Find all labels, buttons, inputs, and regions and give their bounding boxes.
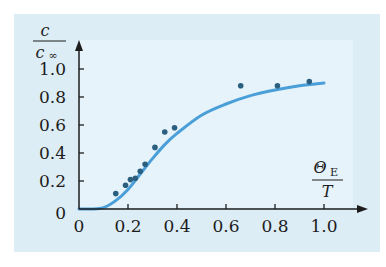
data-point [238, 83, 244, 89]
y-tick-label: 0.4 [39, 143, 66, 163]
y-label-subscript: ∞ [48, 49, 57, 62]
data-point [152, 145, 158, 151]
data-point [137, 168, 143, 174]
data-point [275, 83, 281, 89]
x-tick-label: 0.6 [212, 216, 239, 236]
x-label-denominator: T [322, 182, 334, 201]
y-tick-label: 0.6 [39, 115, 66, 135]
x-axis-arrow-icon [357, 205, 368, 213]
x-tick-label: 0.2 [114, 216, 141, 236]
x-tick-label: 0 [74, 216, 85, 236]
data-point [128, 177, 134, 183]
x-tick-label: 1.0 [310, 216, 337, 236]
x-tick-label: 0.8 [261, 216, 288, 236]
y-tick-label: 0 [55, 203, 66, 223]
x-tick-label: 0.4 [163, 216, 190, 236]
data-point [307, 79, 313, 85]
plot-area [79, 40, 353, 208]
y-label-numerator: c [41, 21, 50, 40]
y-axis-label: c c ∞ [33, 21, 66, 62]
x-label-subscript: E [330, 166, 338, 179]
chart-canvas: 00.20.40.60.81.000.20.40.60.81.0 c c ∞ Θ… [0, 0, 386, 267]
data-point [133, 175, 139, 181]
data-point [123, 182, 129, 188]
y-tick-label: 0.2 [39, 171, 66, 191]
y-tick-label: 1.0 [39, 59, 66, 79]
y-tick-label: 0.8 [39, 87, 66, 107]
data-point [113, 191, 119, 197]
y-label-denominator: c [36, 43, 45, 62]
x-label-numerator: Θ [313, 158, 326, 177]
data-point [162, 129, 168, 135]
data-point [172, 125, 178, 131]
data-point [142, 161, 148, 167]
